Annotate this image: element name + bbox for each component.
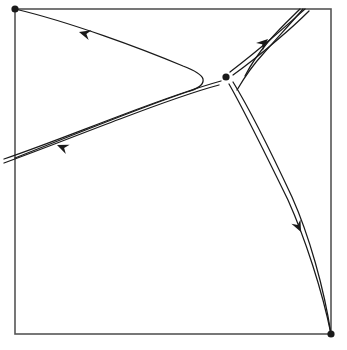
plot-frame-border [15, 9, 331, 334]
corner-node-bottom-right [327, 330, 334, 337]
saddle-point [222, 73, 229, 80]
phase-portrait-canvas [0, 0, 347, 350]
phase-portrait-figure [0, 0, 347, 350]
corner-node-top-left [11, 5, 18, 12]
